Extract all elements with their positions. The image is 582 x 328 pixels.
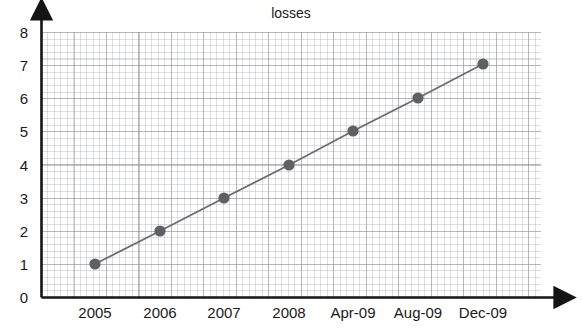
data-point-2006[interactable]: 2006: 2 <box>154 225 165 236</box>
data-point-dec-09[interactable]: Dec-09: 7 <box>477 58 488 69</box>
series-markers: 2005: 12006: 22007: 32008: 4Apr-09: 5Aug… <box>89 58 488 269</box>
data-series-losses: 2005: 12006: 22007: 32008: 4Apr-09: 5Aug… <box>0 0 582 328</box>
data-point-apr-09[interactable]: Apr-09: 5 <box>347 125 358 136</box>
line-chart: losses 8 7 6 5 4 3 2 1 0 2005 2006 2007 … <box>0 0 582 328</box>
data-point-2008[interactable]: 2008: 4 <box>283 159 294 170</box>
data-point-2005[interactable]: 2005: 1 <box>89 258 100 269</box>
data-point-2007[interactable]: 2007: 3 <box>218 192 229 203</box>
data-point-aug-09[interactable]: Aug-09: 6 <box>412 92 423 103</box>
